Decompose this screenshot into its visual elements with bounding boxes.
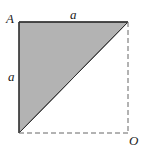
diagram-canvas: A a a O: [0, 0, 143, 148]
left-side-label: a: [8, 69, 15, 84]
vertex-label-a: A: [5, 11, 14, 26]
vertex-label-o: O: [129, 133, 139, 148]
top-side-label: a: [70, 7, 77, 22]
